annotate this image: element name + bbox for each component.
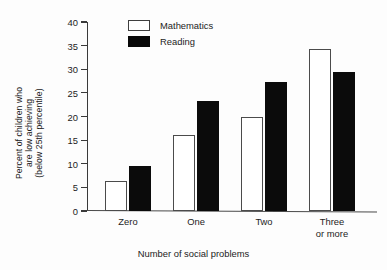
y-tick-label-30: 30 xyxy=(68,64,78,75)
bar-reading-two xyxy=(265,82,287,211)
bar-reading-one xyxy=(197,101,219,211)
y-tick-0: 0 xyxy=(81,210,87,211)
legend-item-mathematics: Mathematics xyxy=(128,17,213,33)
y-tick-15: 15 xyxy=(81,140,87,141)
legend-item-reading: Reading xyxy=(128,33,213,49)
y-axis-title-line-3: (below 25th percentile) xyxy=(34,88,44,177)
y-tick-label-40: 40 xyxy=(68,17,78,28)
y-tick-label-5: 5 xyxy=(73,182,78,193)
y-tick-25: 25 xyxy=(81,92,87,93)
chart-legend: Mathematics Reading xyxy=(128,17,213,49)
y-axis-title-line-1: Percent of children who xyxy=(14,87,24,179)
y-tick-label-10: 10 xyxy=(68,158,78,169)
y-tick-label-20: 20 xyxy=(68,111,78,122)
y-tick-30: 30 xyxy=(81,69,87,70)
y-tick-20: 20 xyxy=(81,116,87,117)
x-axis-title: Number of social problems xyxy=(0,248,387,259)
x-category-label-line: Three xyxy=(287,216,377,228)
y-axis-title: Percent of children who are low achievin… xyxy=(4,38,54,228)
bar-mathematics-two xyxy=(241,117,263,212)
legend-label-mathematics: Mathematics xyxy=(160,20,213,31)
legend-swatch-mathematics-icon xyxy=(128,20,150,31)
y-tick-10: 10 xyxy=(81,163,87,164)
legend-swatch-reading-icon xyxy=(128,36,150,47)
bar-mathematics-three-or-more xyxy=(309,49,331,211)
y-tick-5: 5 xyxy=(81,187,87,188)
y-tick-label-0: 0 xyxy=(73,206,78,217)
bar-reading-zero xyxy=(129,166,151,211)
bar-mathematics-one xyxy=(173,135,195,211)
bar-mathematics-zero xyxy=(105,181,127,211)
x-category-label-three-or-more: Threeor more xyxy=(287,216,377,240)
y-tick-label-15: 15 xyxy=(68,135,78,146)
y-tick-label-35: 35 xyxy=(68,40,78,51)
y-axis-title-line-2: are low achieving xyxy=(24,99,34,167)
plot-area: 0510152025303540 xyxy=(87,22,377,211)
x-category-label-line: or more xyxy=(287,228,377,240)
y-axis-line xyxy=(87,22,88,211)
y-tick-40: 40 xyxy=(81,21,87,22)
bar-reading-three-or-more xyxy=(333,72,355,211)
y-tick-35: 35 xyxy=(81,45,87,46)
bar-chart-figure: Percent of children who are low achievin… xyxy=(0,0,387,270)
y-tick-label-25: 25 xyxy=(68,87,78,98)
legend-label-reading: Reading xyxy=(160,36,195,47)
